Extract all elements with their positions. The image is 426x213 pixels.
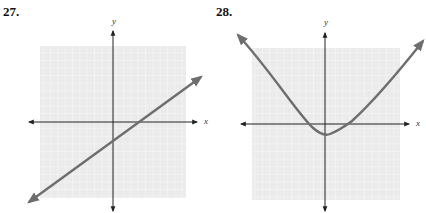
graphs-canvas [0,0,426,213]
graph-28 [238,33,423,211]
graph-27 [29,31,201,211]
